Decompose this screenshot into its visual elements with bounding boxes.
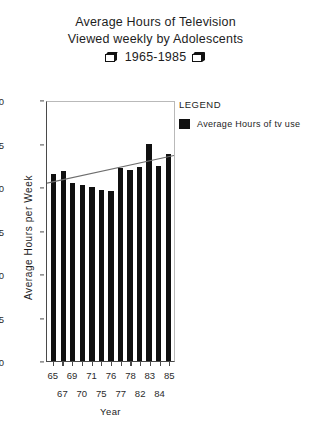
x-tick-label: 69 <box>67 370 78 381</box>
y-tick-mark <box>40 144 44 145</box>
title-line-1: Average Hours of Television <box>0 14 311 31</box>
legend-swatch-icon <box>179 119 190 129</box>
y-tick-label: 20 <box>0 183 4 194</box>
x-tick-mark <box>92 362 93 366</box>
title-line-3: 1965-1985 <box>0 49 311 66</box>
legend-item: Average Hours of tv use <box>179 119 309 129</box>
x-tick-label: 82 <box>135 388 146 399</box>
x-tick-label: 65 <box>47 370 58 381</box>
plot-area <box>46 101 175 362</box>
x-tick-mark <box>62 362 63 366</box>
x-tick-label: 84 <box>154 388 165 399</box>
x-tick-mark <box>72 362 73 366</box>
x-tick-label: 77 <box>115 388 126 399</box>
y-tick-label: 30 <box>0 96 4 107</box>
y-tick-label: 0 <box>0 357 4 368</box>
x-tick-mark <box>111 362 112 366</box>
bar <box>127 170 132 361</box>
y-tick-label: 15 <box>0 226 4 237</box>
legend-item-label: Average Hours of tv use <box>197 119 300 129</box>
y-tick-mark <box>40 361 44 362</box>
bar <box>146 144 151 362</box>
y-tick-mark <box>40 274 44 275</box>
television-icon-right <box>192 52 206 63</box>
x-tick-label: 75 <box>96 388 107 399</box>
bar <box>70 183 75 361</box>
bar <box>137 167 142 361</box>
bar-series <box>47 102 174 361</box>
x-tick-mark <box>82 362 83 366</box>
x-tick-label: 85 <box>164 370 175 381</box>
bar <box>118 168 123 361</box>
x-tick-label: 67 <box>57 388 68 399</box>
x-tick-mark <box>160 362 161 366</box>
bar <box>166 154 171 361</box>
x-tick-label: 76 <box>106 370 117 381</box>
legend-header: LEGEND <box>179 99 309 110</box>
y-tick-mark <box>40 318 44 319</box>
title-year-range: 1965-1985 <box>125 49 187 66</box>
bar <box>89 187 94 361</box>
y-tick-mark <box>40 100 44 101</box>
x-tick-mark <box>121 362 122 366</box>
title-line-2: Viewed weekly by Adolescents <box>0 31 311 48</box>
bar <box>99 190 104 361</box>
chart-page: Average Hours of Television Viewed weekl… <box>0 0 311 432</box>
y-tick-label: 25 <box>0 139 4 150</box>
y-axis-label: Average Hours per Week <box>23 158 34 318</box>
y-tick-mark <box>40 187 44 188</box>
chart-title: Average Hours of Television Viewed weekl… <box>0 14 311 66</box>
bar <box>80 185 85 361</box>
x-axis-labels-top: 65697176788385 <box>46 370 175 384</box>
x-tick-mark <box>150 362 151 366</box>
bar <box>156 166 161 361</box>
x-tick-mark <box>140 362 141 366</box>
x-tick-label: 83 <box>145 370 156 381</box>
x-tick-mark <box>53 362 54 366</box>
y-tick-mark <box>40 231 44 232</box>
x-tick-label: 70 <box>77 388 88 399</box>
x-axis-labels-bottom: 677075778284 <box>46 388 175 402</box>
legend: LEGEND Average Hours of tv use <box>179 99 309 129</box>
y-tick-label: 5 <box>0 313 4 324</box>
x-axis-label: Year <box>46 406 175 417</box>
y-tick-label: 10 <box>0 270 4 281</box>
x-tick-label: 71 <box>86 370 97 381</box>
x-tick-label: 78 <box>125 370 136 381</box>
bar <box>61 171 66 361</box>
x-tick-mark <box>169 362 170 366</box>
television-icon-left <box>105 52 119 63</box>
bar <box>51 174 56 361</box>
x-tick-mark <box>130 362 131 366</box>
x-axis-ticks <box>46 362 175 368</box>
x-tick-mark <box>101 362 102 366</box>
bar <box>108 191 113 361</box>
